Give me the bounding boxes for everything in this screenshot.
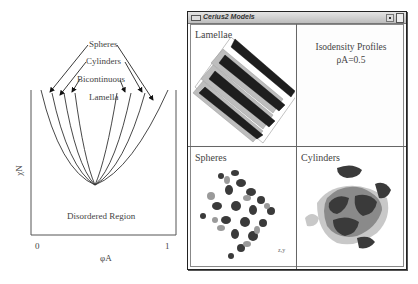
window-title: Cerius2 Models — [203, 13, 255, 20]
x-axis-label: φA — [100, 254, 112, 263]
label-cylinders: Cylinders — [86, 57, 121, 66]
cylinders-model — [297, 148, 403, 266]
phase-boundaries — [41, 90, 168, 185]
cerius2-models-window[interactable]: Cerius2 Models Lamellae — [187, 11, 407, 270]
label-spheres: Spheres — [89, 40, 118, 49]
maximize-icon[interactable] — [396, 13, 404, 23]
axis-marker: z,y — [278, 247, 285, 253]
pane-cylinders[interactable]: Cylinders — [297, 148, 403, 266]
isodensity-title: Isodensity Profiles — [298, 42, 404, 52]
window-titlebar[interactable]: Cerius2 Models — [188, 12, 406, 24]
disordered-region-label: Disordered Region — [67, 212, 135, 221]
label-lamella: Lamella — [89, 93, 118, 102]
spheres-model: z,y — [191, 148, 295, 266]
isodensity-rho: ρA=0.5 — [298, 55, 404, 65]
window-menu-icon[interactable] — [191, 15, 201, 21]
pane-lamellae[interactable]: Lamellae — [191, 25, 295, 145]
label-bicontinuous: Bicontinuous — [77, 75, 125, 84]
x-tick-0: 0 — [35, 242, 40, 251]
minimize-icon[interactable] — [386, 14, 394, 22]
lamellae-model — [191, 25, 295, 145]
x-tick-1: 1 — [165, 242, 170, 251]
pane-divider-horizontal — [188, 146, 406, 147]
phase-diagram: Spheres Cylinders Bicontinuous Lamella χ… — [0, 0, 190, 284]
pane-spheres[interactable]: Spheres z,y — [191, 148, 295, 266]
y-axis-label: χN — [15, 165, 24, 176]
